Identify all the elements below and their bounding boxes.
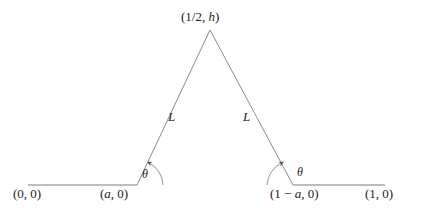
origin-close-paren: ) (37, 186, 41, 201)
label-side-length-right: L (243, 110, 250, 123)
left-foot-close-paren: ) (124, 186, 128, 201)
right-foot-minus-sign: − (281, 186, 295, 201)
right-foot-close-paren: ) (314, 186, 318, 201)
label-right-end-coordinate: (1, 0) (365, 187, 393, 200)
angle-arc-left (150, 163, 164, 185)
label-apex-coordinate: (1/2, h) (181, 10, 219, 23)
label-theta-left: θ (142, 168, 148, 180)
label-origin-coordinate: (0, 0) (13, 187, 41, 200)
geometry-figure: (1/2, h) (0, 0) (a, 0) (1 − a, 0) (1, 0)… (0, 0, 422, 218)
triangle-side-right (210, 30, 293, 185)
apex-x-value: 1/2 (185, 9, 202, 24)
label-theta-right: θ (297, 166, 303, 178)
label-right-foot-coordinate: (1 − a, 0) (270, 187, 319, 200)
label-side-length-left: L (168, 110, 175, 123)
triangle-side-left (137, 30, 210, 185)
right-end-close-paren: ) (389, 186, 393, 201)
apex-close-paren: ) (215, 9, 219, 24)
geometry-canvas (0, 0, 422, 218)
angle-arc-right (267, 163, 282, 185)
label-left-foot-coordinate: (a, 0) (100, 187, 128, 200)
